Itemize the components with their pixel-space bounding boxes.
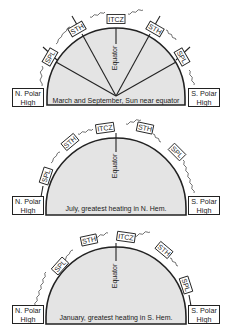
wave-line xyxy=(183,160,194,193)
sth-tag-north: STH xyxy=(61,133,79,150)
box-label: High xyxy=(13,207,43,216)
panel-caption: March and September, Sun near equator xyxy=(47,97,185,104)
equator-label: Equator xyxy=(111,153,119,178)
svg-text:ITCZ: ITCZ xyxy=(108,16,124,23)
wave-line xyxy=(35,272,46,305)
wave-line xyxy=(51,152,60,163)
wave-line xyxy=(170,258,178,266)
wave-line xyxy=(189,70,194,85)
north-polar-high-box: N. Polar High xyxy=(12,88,44,107)
sth-tag-north: STH xyxy=(80,234,98,246)
itcz-tag: ITCZ xyxy=(95,122,114,133)
panel-july: SPL STH ITCZ STH SPL Equator xyxy=(39,120,194,215)
wave-line xyxy=(153,134,161,142)
wave-line xyxy=(78,129,93,134)
panel-caption: July, greatest heating in N. Hem. xyxy=(47,205,185,212)
panel-caption: January, greatest heating in S. Hem. xyxy=(47,314,185,321)
south-polar-high-box: S. Polar High xyxy=(188,305,220,324)
wave-line xyxy=(90,12,105,17)
sth-tag-south: STH xyxy=(146,21,164,37)
wave-line xyxy=(128,10,143,15)
north-polar-high-box: N. Polar High xyxy=(12,305,44,324)
box-label: High xyxy=(189,316,219,325)
panel-january: SPL STH ITCZ STH SPL Equator xyxy=(35,231,193,324)
wave-line xyxy=(96,233,108,238)
equator-label: Equator xyxy=(111,263,119,288)
box-label: High xyxy=(189,99,219,108)
box-label: High xyxy=(189,207,219,216)
wave-line xyxy=(166,30,176,40)
itcz-tag: ITCZ xyxy=(116,231,135,242)
sth-tag-south: STH xyxy=(136,122,154,134)
equator-label: Equator xyxy=(111,45,119,70)
south-polar-high-box: S. Polar High xyxy=(188,196,220,215)
wave-line xyxy=(40,66,43,86)
sth-tag-south: STH xyxy=(155,241,173,258)
spl-tag-south: SPL xyxy=(168,143,186,161)
wave-line xyxy=(135,232,150,237)
box-label: High xyxy=(13,316,43,325)
north-polar-high-box: N. Polar High xyxy=(12,196,44,215)
diagram-canvas: .hemi { fill:#e4e4e4; stroke:#222; strok… xyxy=(0,0,233,328)
sth-tag-north: STH xyxy=(68,21,86,37)
panel-equinox: SPL STH ITCZ STH SPL Equator xyxy=(40,10,194,105)
south-polar-high-box: S. Polar High xyxy=(188,88,220,107)
itcz-tag: ITCZ xyxy=(107,15,125,24)
box-label: High xyxy=(13,99,43,108)
wave-line xyxy=(64,250,73,261)
